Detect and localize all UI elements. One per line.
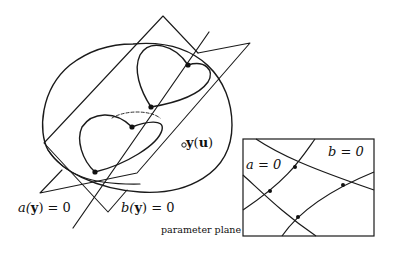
plane-a (40, 43, 250, 193)
lower-curve (48, 150, 140, 184)
upper-loop (137, 45, 210, 107)
label-b-plane: b(y) = 0 (121, 201, 174, 214)
label-b-curve: b = 0 (328, 145, 364, 158)
label-parameter-plane: parameter plane (161, 225, 241, 235)
label-y-of-u: y(u) (186, 136, 213, 149)
diagram-canvas (0, 0, 393, 253)
lower-loop (80, 115, 163, 172)
label-a-curve: a = 0 (246, 158, 281, 171)
param-curve-a1 (243, 139, 315, 210)
intersection-line (73, 32, 209, 228)
label-a-plane: a(y) = 0 (18, 201, 71, 214)
param-curve-a3 (282, 172, 374, 236)
param-curve-a2 (243, 175, 316, 236)
